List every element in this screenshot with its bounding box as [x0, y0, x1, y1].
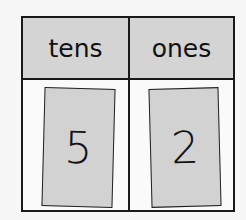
column-divider: [128, 18, 130, 210]
ones-header: ones: [130, 18, 233, 78]
tens-header: tens: [23, 18, 128, 78]
tens-digit-card: 5: [41, 87, 115, 208]
place-value-table: tens ones 5 2: [21, 16, 235, 212]
ones-digit-card: 2: [148, 87, 221, 208]
